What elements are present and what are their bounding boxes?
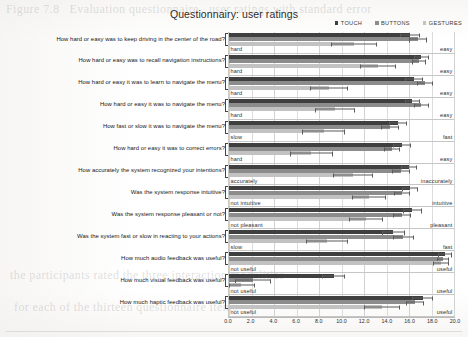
question-row: Was the system response pleasant or not?: [0, 207, 228, 229]
plot-area: hardeasyhardeasyhardeasyhardeasyslowfast…: [228, 32, 455, 317]
error-bar: [438, 254, 452, 255]
scale-pole-right: easy: [440, 112, 452, 118]
x-axis-tick-label: 16.0: [404, 318, 415, 324]
question-label: Was the system response intuitive?: [131, 188, 225, 196]
question-label: How hard or easy was to recall navigatio…: [79, 56, 226, 64]
bar-group-row: hardeasy: [229, 142, 454, 164]
x-axis-tick-label: 14.0: [382, 318, 393, 324]
error-bar: [409, 39, 427, 40]
bar-fill: [229, 195, 369, 199]
error-bar: [414, 56, 430, 57]
legend-label: BUTTONS: [381, 20, 410, 26]
scale-pole-left: slow: [231, 134, 243, 140]
bar-gestures[interactable]: [229, 42, 454, 46]
error-bar: [302, 131, 345, 132]
scale-pole-left: hard: [231, 112, 243, 118]
error-bar: [382, 232, 405, 233]
question-label: How fast or slow it was to navigate the …: [103, 122, 225, 130]
scale-pole-left: slow: [231, 244, 243, 250]
legend-item-buttons: BUTTONS: [375, 20, 410, 26]
bar-group-row: accuratelyinaccurately: [229, 164, 454, 186]
bar-group-row: not intuitiveintuitive: [229, 185, 454, 207]
error-bar: [392, 170, 410, 171]
legend-item-touch: TOUCH: [335, 20, 362, 26]
error-bar: [315, 109, 356, 110]
bar-group: [229, 296, 454, 309]
bar-gestures[interactable]: [229, 107, 454, 111]
bar-gestures[interactable]: [229, 64, 454, 68]
bar-group-row: not usefuluseful: [229, 251, 454, 273]
legend-swatch-icon: [375, 21, 379, 25]
x-axis-tick-label: 18.0: [427, 318, 438, 324]
bar-group: [229, 165, 454, 178]
bar-group: [229, 208, 454, 221]
error-bar: [310, 87, 348, 88]
scale-pole-left: accurately: [231, 178, 258, 184]
scale-pole-left: not useful: [231, 266, 257, 272]
error-bar: [290, 153, 333, 154]
question-label: How hard or easy was to keep driving in …: [56, 35, 225, 43]
x-axis-tick-label: 4.0: [270, 318, 278, 324]
bar-group: [229, 143, 454, 156]
error-bar: [401, 166, 417, 167]
bar-group-row: slowfast: [229, 120, 454, 142]
bar-group: [229, 55, 454, 68]
error-bar: [331, 43, 376, 44]
error-bar: [394, 192, 410, 193]
bar-gestures[interactable]: [229, 283, 454, 287]
bar-group: [229, 230, 454, 243]
bar-gestures[interactable]: [229, 129, 454, 133]
gridline: [454, 32, 455, 317]
legend-label: GESTURES: [429, 20, 462, 26]
bar-gestures[interactable]: [229, 305, 454, 309]
bar-fill: [229, 261, 441, 265]
question-label: How accurately the system recognized you…: [78, 166, 225, 174]
legend-label: TOUCH: [341, 20, 362, 26]
error-bar: [393, 214, 411, 215]
question-label: Was the system fast or slow in reacting …: [77, 232, 225, 240]
question-label: How hard or easy it was to learn to navi…: [78, 78, 225, 86]
chart-legend: TOUCHBUTTONSGESTURES: [335, 20, 462, 26]
x-axis-tick-label: 12.0: [359, 318, 370, 324]
bar-group: [229, 274, 454, 287]
question-row: How hard or easy it was to navigate the …: [0, 98, 228, 120]
scale-pole-left: hard: [231, 46, 243, 52]
x-axis-tick-label: 20.0: [450, 318, 461, 324]
legend-swatch-icon: [423, 21, 427, 25]
bar-group-row: slowfast: [229, 229, 454, 251]
scale-pole-right: fast: [443, 134, 453, 140]
question-label-column: How hard or easy was to keep driving in …: [0, 32, 228, 317]
error-bar: [364, 306, 400, 307]
error-bar: [412, 298, 432, 299]
x-axis-tick-label: 6.0: [292, 318, 300, 324]
bar-gestures[interactable]: [229, 151, 454, 155]
error-bar: [402, 188, 418, 189]
scale-pole-left: not intuitive: [231, 200, 261, 206]
bar-gestures[interactable]: [229, 261, 454, 265]
question-label: How much haptic feedback was useful?: [120, 298, 225, 306]
bar-gestures[interactable]: [229, 239, 454, 243]
bar-gestures[interactable]: [229, 217, 454, 221]
bar-gestures[interactable]: [229, 173, 454, 177]
error-bar: [412, 61, 426, 62]
error-bar: [403, 210, 421, 211]
error-bar: [400, 35, 420, 36]
bar-group: [229, 77, 454, 90]
bar-gestures[interactable]: [229, 86, 454, 90]
bar-fill: [229, 64, 378, 68]
question-row: How much haptic feedback was useful?: [0, 295, 228, 317]
x-axis-tick-label: 8.0: [315, 318, 323, 324]
question-label: How much visual feedback was useful?: [120, 276, 225, 284]
error-bar: [235, 280, 271, 281]
bar-group: [229, 33, 454, 46]
question-row: How much audio feedback was useful?: [0, 251, 228, 273]
question-row: How hard or easy was to keep driving in …: [0, 32, 228, 54]
bar-rows: hardeasyhardeasyhardeasyhardeasyslowfast…: [229, 32, 454, 317]
error-bar: [389, 122, 407, 123]
question-row: How fast or slow it was to navigate the …: [0, 120, 228, 142]
scale-pole-right: easy: [440, 156, 452, 162]
error-bar: [306, 240, 349, 241]
question-row: Was the system response intuitive?: [0, 185, 228, 207]
error-bar: [393, 236, 413, 237]
bar-gestures[interactable]: [229, 195, 454, 199]
